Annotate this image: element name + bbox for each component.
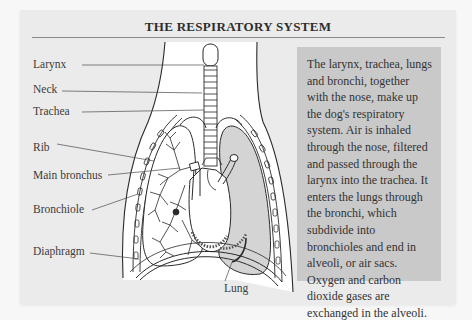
description-text: The larynx, trachea, lungs and bronchi, … bbox=[297, 47, 441, 320]
larynx-shape bbox=[203, 44, 218, 66]
label-larynx: Larynx bbox=[33, 58, 66, 70]
label-rib: Rib bbox=[33, 141, 50, 153]
label-main-bronchus: Main bronchus bbox=[33, 169, 102, 181]
label-lung: Lung bbox=[224, 282, 248, 294]
trachea-rings bbox=[204, 66, 217, 166]
label-neck: Neck bbox=[33, 83, 57, 95]
respiratory-system-panel: THE RESPIRATORY SYSTEM bbox=[20, 10, 456, 304]
description-box: The larynx, trachea, lungs and bronchi, … bbox=[297, 47, 441, 281]
label-trachea: Trachea bbox=[33, 105, 70, 117]
heart bbox=[189, 168, 231, 252]
label-bronchiole: Bronchiole bbox=[33, 203, 84, 215]
label-diaphragm: Diaphragm bbox=[33, 245, 85, 257]
